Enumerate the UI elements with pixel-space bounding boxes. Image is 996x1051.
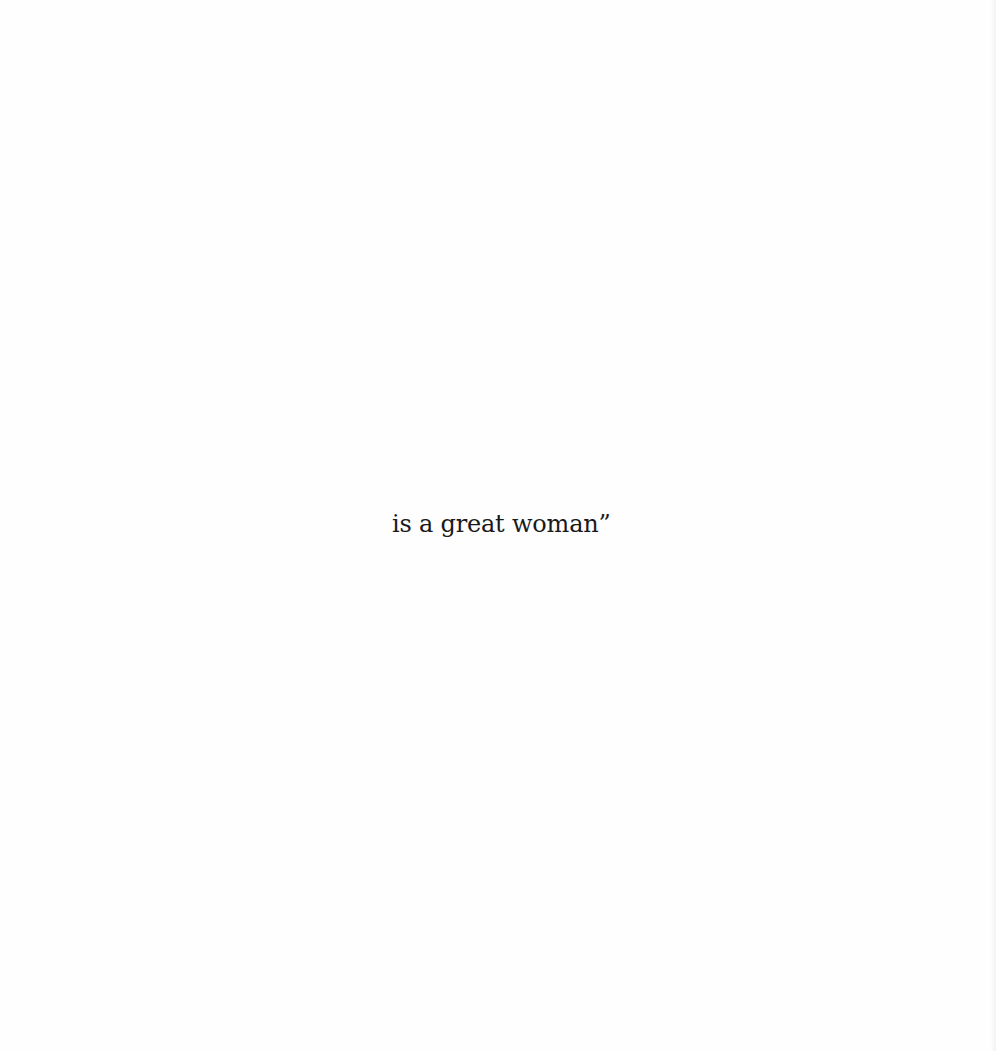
page-edge	[991, 0, 996, 1051]
book-page: is a great woman”	[0, 0, 996, 1051]
quote-text: is a great woman”	[392, 508, 611, 540]
